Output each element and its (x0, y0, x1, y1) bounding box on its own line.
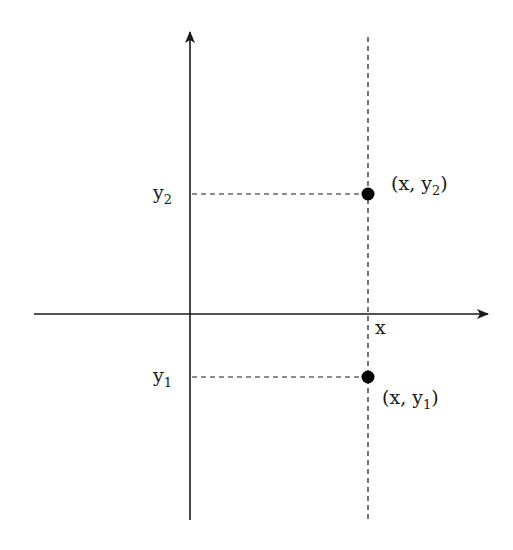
point-x-y2-label: (x, y2) (391, 172, 448, 198)
point-x-y2 (362, 188, 375, 201)
x-axis-label: x (375, 316, 386, 338)
point-x-y1 (362, 371, 375, 384)
point-x-y1-label: (x, y1) (382, 386, 439, 412)
y1-axis-label: y1 (152, 364, 172, 390)
y2-axis-label: y2 (152, 181, 172, 207)
coordinate-diagram: y2 y1 x (x, y2) (x, y1) (0, 0, 513, 550)
